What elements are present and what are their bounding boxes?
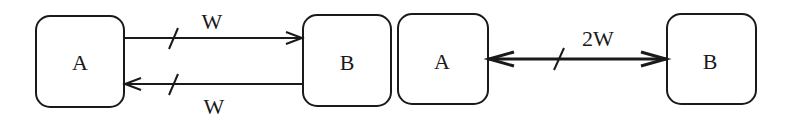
left-diagram: A B W W	[36, 9, 391, 119]
right-diagram: A B 2W	[398, 14, 756, 104]
right-node-b-label: B	[703, 49, 718, 74]
left-forward-edge-label: W	[202, 9, 223, 34]
left-forward-edge: W	[124, 9, 302, 49]
left-backward-edge-label: W	[204, 94, 225, 119]
left-node-a-label: A	[72, 50, 88, 75]
right-bidirectional-edge: 2W	[489, 26, 666, 70]
right-node-a-label: A	[434, 49, 450, 74]
left-backward-edge: W	[125, 74, 303, 119]
right-edge-label: 2W	[582, 26, 614, 51]
diagram-canvas: A B W W A B 2W	[0, 0, 798, 123]
left-node-b-label: B	[340, 50, 355, 75]
